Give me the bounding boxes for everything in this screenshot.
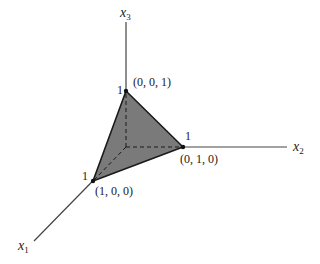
- tick-e2: 1: [185, 129, 191, 143]
- vertex-e2-label: (0, 1, 0): [180, 152, 218, 166]
- vertex-e2-dot: [181, 145, 185, 149]
- vertex-e3-dot: [124, 89, 128, 93]
- tick-e3: 1: [117, 83, 123, 97]
- vertex-e1-label: (1, 0, 0): [95, 184, 133, 198]
- vertex-e3-label: (0, 0, 1): [133, 75, 171, 89]
- simplex-diagram: 1 1 1 (0, 0, 1) (0, 1, 0) (1, 0, 0) x3 x…: [0, 0, 320, 264]
- x3-axis-label: x3: [119, 5, 131, 22]
- x1-axis-label: x1: [17, 238, 29, 255]
- x2-axis-label: x2: [292, 139, 304, 156]
- vertex-e1-dot: [91, 179, 95, 183]
- tick-e1: 1: [82, 169, 88, 183]
